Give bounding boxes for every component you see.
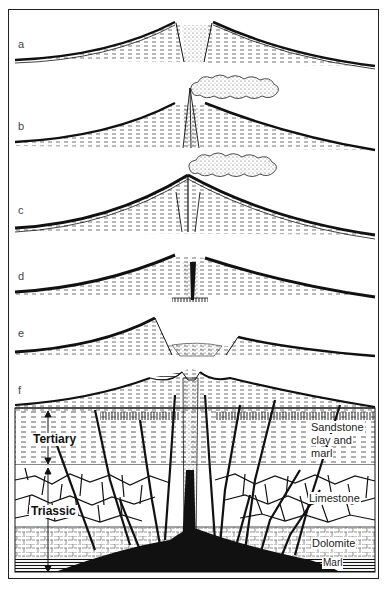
panel-c-volcano: [15, 153, 375, 239]
eruption-cloud-c: [189, 153, 277, 177]
limestone-label: Limestone: [308, 492, 361, 504]
triassic-label: Triassic: [29, 505, 78, 518]
panel-d-volcano: [15, 255, 375, 302]
panel-b-volcano: [15, 75, 375, 150]
panel-label-d: d: [18, 270, 24, 282]
panel-label-a: a: [18, 38, 24, 50]
panel-label-e: e: [18, 327, 24, 339]
panel-a-volcano: [15, 22, 375, 69]
sandstone-label-line1: Sandstone: [310, 421, 365, 433]
panel-label-f: f: [18, 384, 21, 396]
tertiary-label: Tertiary: [31, 433, 78, 446]
marl-label: Marl: [322, 557, 343, 569]
dolomite-label: Dolomite: [311, 537, 356, 549]
panel-e-volcano: [15, 318, 375, 356]
panel-label-b: b: [18, 120, 24, 132]
sandstone-label-line3: marl: [310, 447, 333, 459]
eruption-cloud-b: [191, 75, 279, 99]
sandstone-label-line2: clay and: [310, 434, 353, 446]
panel-label-c: c: [18, 204, 24, 216]
